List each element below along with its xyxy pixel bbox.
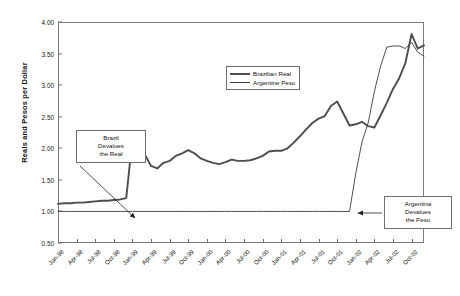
- chart-figure: Reals and Pesos per Dollar 0.501.001.502…: [0, 0, 460, 296]
- y-tick-label: 1.50: [28, 176, 58, 183]
- legend-swatch-argentine-peso: [230, 82, 250, 83]
- y-tick-label: 4.00: [28, 19, 58, 26]
- legend-label-argentine-peso: Argentine Peso: [253, 79, 295, 86]
- y-tick-label: 3.50: [28, 50, 58, 57]
- y-tick-label: 2.00: [28, 145, 58, 152]
- annotation-argentina-line1: Argentina: [389, 200, 447, 208]
- annotation-brazil-line3: the Real: [81, 150, 141, 158]
- y-tick-label: 1.00: [28, 208, 58, 215]
- legend-label-brazilian-real: Brazilian Real: [253, 70, 291, 77]
- legend: Brazilian Real Argentine Peso: [226, 66, 300, 90]
- annotation-argentina-devalues: Argentina Devalues the Peso: [384, 196, 452, 229]
- legend-item-brazilian-real: Brazilian Real: [230, 69, 295, 78]
- annotation-brazil-line1: Brazil: [81, 134, 141, 142]
- y-tick-label: 0.50: [28, 240, 58, 247]
- y-tick-label: 3.00: [28, 82, 58, 89]
- annotation-brazil-line2: Devalues: [81, 142, 141, 150]
- annotation-argentina-line3: the Peso: [389, 216, 447, 224]
- annotation-argentina-line2: Devalues: [389, 208, 447, 216]
- annotation-brazil-devalues: Brazil Devalues the Real: [76, 130, 146, 163]
- legend-swatch-brazilian-real: [230, 73, 250, 75]
- legend-item-argentine-peso: Argentine Peso: [230, 78, 295, 87]
- y-tick-label: 2.50: [28, 113, 58, 120]
